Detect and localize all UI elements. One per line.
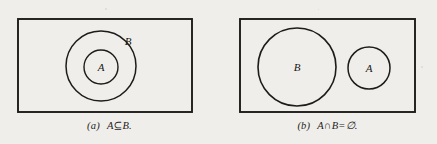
caption-operand-a2: B. xyxy=(123,120,132,131)
venn-panel-subset: B A (a)A⊆B. xyxy=(0,0,219,144)
caption-label-a: (a) xyxy=(87,120,100,131)
universe-rectangle-a xyxy=(18,19,192,112)
set-label-b: B xyxy=(125,36,132,47)
scan-speck xyxy=(318,9,319,10)
caption-disjoint: (b)A∩B=∅. xyxy=(218,119,437,131)
set-label-a: A xyxy=(98,62,105,73)
venn-diagram-disjoint-graphic xyxy=(218,0,437,118)
equals-operator-icon: = xyxy=(338,120,345,131)
universe-rectangle-b xyxy=(240,19,415,112)
intersection-operator-icon: ∩ xyxy=(324,120,332,131)
venn-diagram-subset-graphic xyxy=(0,0,219,118)
venn-panel-disjoint: B A (b)A∩B=∅. xyxy=(218,0,437,144)
scan-speck xyxy=(421,66,423,68)
caption-subset: (a)A⊆B. xyxy=(0,119,219,131)
set-label-a: A xyxy=(366,63,373,74)
set-label-b: B xyxy=(294,62,301,73)
scan-speck xyxy=(105,8,107,10)
caption-operand-a1: A xyxy=(107,120,114,131)
subset-operator-icon: ⊆ xyxy=(114,120,123,131)
caption-label-b: (b) xyxy=(297,120,310,131)
empty-set-symbol-icon: ∅. xyxy=(346,120,358,131)
venn-figure: B A (a)A⊆B. B A (b)A∩B=∅. xyxy=(0,0,437,144)
caption-operand-b1: A xyxy=(317,120,324,131)
